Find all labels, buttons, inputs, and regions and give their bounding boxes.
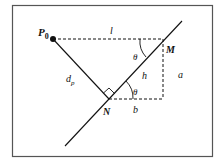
label-M: M [165, 44, 176, 55]
label-dp: dp [66, 73, 75, 87]
label-b: b [133, 104, 138, 115]
line-L [65, 21, 182, 146]
label-N: N [102, 106, 111, 117]
right-angle-marker [104, 88, 115, 94]
label-l: l [110, 25, 113, 36]
label-h: h [142, 70, 147, 81]
angle-arc-top [140, 39, 146, 57]
perpendicular-dp [53, 39, 109, 99]
label-theta-top: θ [133, 52, 138, 62]
angle-arc-bottom [126, 81, 133, 99]
label-p0: P0 [38, 26, 49, 41]
geometry-diagram: P0 l θ M h a dp θ N b [0, 0, 224, 166]
point-p0 [50, 36, 56, 42]
label-theta-bottom: θ [133, 87, 138, 97]
label-a: a [178, 69, 183, 80]
